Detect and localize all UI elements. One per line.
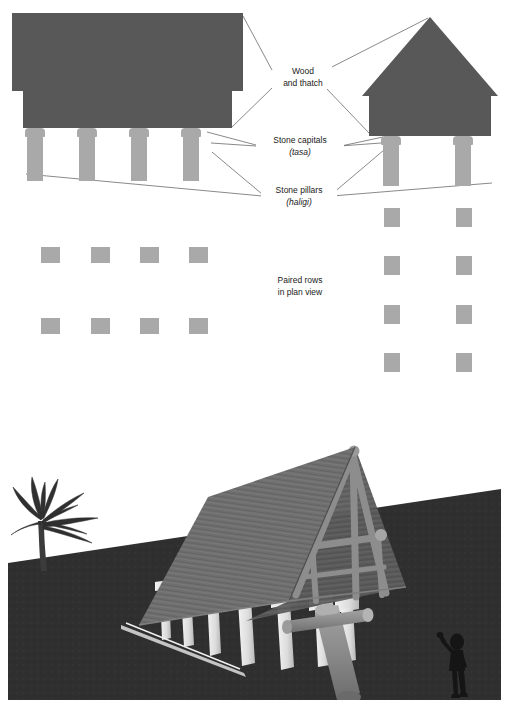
label-line: in plan view: [268, 287, 332, 299]
right-pillar-1: [381, 136, 401, 186]
right-plan-square: [384, 256, 400, 275]
left-plan-square: [140, 247, 159, 263]
figure-root: Wood and thatch Stone capitals (tasa) St…: [0, 0, 509, 715]
left-plan-square: [41, 247, 60, 263]
left-plan-square: [189, 247, 208, 263]
left-pillar-1: [25, 128, 45, 181]
truss-post-left: [312, 545, 316, 601]
leader-wood-downleft: [232, 88, 272, 127]
right-plan-square: [384, 305, 400, 324]
pillar-capital: [77, 128, 97, 137]
pillar-shaft: [131, 137, 147, 181]
pillar-capital: [129, 128, 149, 137]
pillar-shaft: [183, 137, 199, 181]
right-plan-square: [456, 305, 472, 324]
label-line: Wood: [276, 66, 330, 78]
pillar-capital: [181, 128, 201, 137]
label-stone-pillars: Stone pillars (haligi): [261, 185, 337, 208]
pillar-shaft: [27, 137, 43, 181]
leader-pillars-upleft: [212, 152, 262, 194]
left-plan-square: [91, 318, 110, 334]
label-line: Stone pillars: [263, 185, 335, 197]
pillar-capital: [453, 136, 473, 145]
label-line-italic: (tasa): [258, 147, 342, 159]
right-pillar-2: [453, 136, 473, 186]
pillar-shaft: [79, 137, 95, 181]
leader-capitals-leftup: [207, 132, 256, 145]
pillar-shaft: [455, 145, 471, 186]
right-plan-square: [456, 208, 472, 227]
label-line: Paired rows: [268, 275, 332, 287]
leader-capitals-right: [340, 143, 381, 146]
figure-head: [450, 634, 464, 651]
left-pillar-3: [129, 128, 149, 181]
label-wood-and-thatch: Wood and thatch: [274, 66, 332, 89]
figure-foot-right: [459, 693, 468, 697]
truss-peg-right: [375, 529, 387, 541]
diagram-panel: Wood and thatch Stone capitals (tasa) St…: [0, 0, 509, 400]
label-stone-capitals: Stone capitals (tasa): [256, 135, 344, 158]
pillar-capital: [25, 128, 45, 137]
leader-capitals-left: [211, 143, 256, 146]
truss-kingpost: [353, 457, 356, 597]
right-plan-square: [384, 353, 400, 372]
reconstruction-illustration: [8, 425, 501, 700]
pillar-capital: [381, 136, 401, 145]
right-plan-square: [456, 353, 472, 372]
right-plan-square: [456, 256, 472, 275]
pillar-shaft: [383, 145, 399, 186]
left-plan-square: [41, 318, 60, 334]
right-house-body: [369, 96, 491, 136]
left-plan-square: [140, 318, 159, 334]
leader-wood-upleft: [243, 16, 272, 70]
illustration-svg: [8, 425, 501, 700]
left-plan-square: [91, 247, 110, 263]
label-line: Stone capitals: [258, 135, 342, 147]
right-house-roof: [362, 17, 498, 96]
left-pillar-2: [77, 128, 97, 181]
label-line-italic: (haligi): [263, 197, 335, 209]
left-plan-square: [189, 318, 208, 334]
label-paired-rows: Paired rows in plan view: [266, 275, 334, 298]
leader-capitals-rightup: [341, 137, 383, 146]
label-line: and thatch: [276, 78, 330, 90]
figure-hand: [437, 632, 444, 638]
right-plan-square: [384, 208, 400, 227]
left-house-roof: [12, 13, 243, 91]
left-pillar-4: [181, 128, 201, 181]
figure-foot-left: [451, 694, 460, 698]
left-house-body: [23, 91, 232, 128]
